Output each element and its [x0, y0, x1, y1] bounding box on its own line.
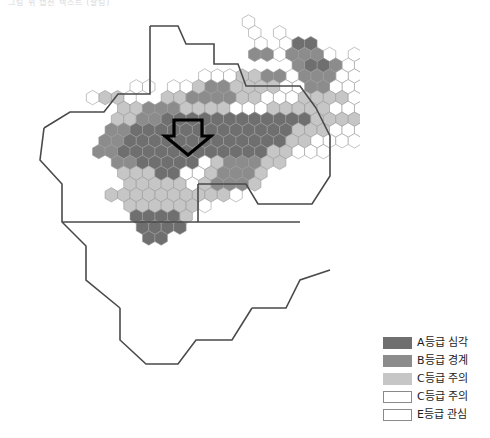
hex-cell: [86, 90, 98, 104]
legend-swatch-b: [383, 355, 412, 367]
legend-swatch-e: [383, 409, 412, 421]
cartogram-svg: [0, 8, 360, 408]
legend-swatch-c1: [383, 373, 412, 385]
legend-label-e: E등급 관심: [417, 409, 467, 421]
legend-swatch-a: [383, 337, 412, 349]
legend: A등급 심각 B등급 경계 C등급 주의 C등급 주의 E등급 관심: [383, 334, 488, 424]
legend-item-c2: C등급 주의: [383, 388, 488, 405]
legend-label-c1: C등급 주의: [417, 373, 468, 385]
hex-region-layer: [86, 15, 360, 245]
legend-swatch-c2: [383, 391, 412, 403]
province-boundary: [252, 270, 330, 308]
legend-item-e: E등급 관심: [383, 406, 488, 423]
cartogram-map: [0, 8, 360, 408]
hex-cell: [105, 188, 117, 202]
legend-label-b: B등급 경계: [417, 355, 468, 367]
hex-cell: [99, 90, 111, 104]
legend-item-c1: C등급 주의: [383, 370, 488, 387]
top-caption-text: 그림 위 캡션 텍스트 (잘림): [8, 0, 110, 7]
legend-item-a: A등급 심각: [383, 334, 488, 351]
province-boundary: [120, 308, 252, 364]
legend-item-b: B등급 경계: [383, 352, 488, 369]
hex-cell: [142, 80, 154, 94]
legend-label-c2: C등급 주의: [417, 391, 468, 403]
legend-label-a: A등급 심각: [417, 337, 468, 349]
